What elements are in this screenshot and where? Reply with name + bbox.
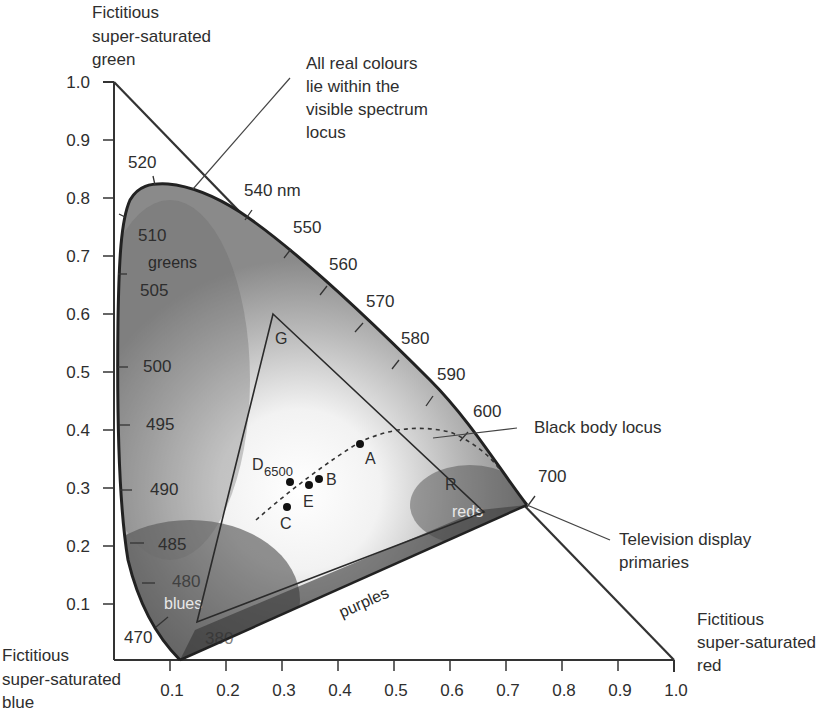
svg-text:super-saturated: super-saturated: [697, 633, 816, 652]
svg-text:0.8: 0.8: [66, 189, 90, 208]
svg-text:0.1: 0.1: [66, 595, 90, 614]
svg-text:G: G: [275, 330, 287, 347]
svg-text:0.7: 0.7: [66, 247, 90, 266]
svg-text:0.8: 0.8: [552, 681, 576, 700]
point-e: [305, 481, 313, 489]
svg-text:A: A: [365, 450, 376, 467]
svg-text:visible spectrum: visible spectrum: [306, 100, 428, 119]
svg-text:1.0: 1.0: [664, 681, 688, 700]
chromaticity-diagram: 1.0 0.9 0.8 0.7 0.6 0.5 0.4 0.3 0.2 0.1 …: [0, 0, 840, 727]
svg-text:380: 380: [205, 629, 233, 648]
y-axis-tick-labels: 1.0 0.9 0.8 0.7 0.6 0.5 0.4 0.3 0.2 0.1: [66, 73, 90, 614]
svg-text:super-saturated: super-saturated: [2, 670, 121, 689]
svg-text:0.2: 0.2: [66, 537, 90, 556]
svg-text:E: E: [303, 493, 314, 510]
svg-text:700: 700: [538, 467, 566, 486]
svg-text:0.3: 0.3: [272, 681, 296, 700]
svg-text:480: 480: [172, 572, 200, 591]
svg-text:greens: greens: [148, 254, 197, 271]
svg-text:0.5: 0.5: [66, 363, 90, 382]
svg-text:D: D: [252, 456, 264, 473]
svg-text:500: 500: [143, 357, 171, 376]
svg-text:C: C: [280, 515, 292, 532]
svg-text:520: 520: [128, 153, 156, 172]
svg-text:590: 590: [437, 365, 465, 384]
svg-text:Fictitious: Fictitious: [697, 610, 764, 629]
svg-text:Fictitious: Fictitious: [92, 3, 159, 22]
svg-text:blues: blues: [164, 595, 202, 612]
svg-text:1.0: 1.0: [66, 73, 90, 92]
svg-text:540 nm: 540 nm: [244, 181, 301, 200]
svg-text:490: 490: [150, 480, 178, 499]
svg-text:All real colours: All real colours: [306, 54, 418, 73]
annotation-tv-primaries: Television display primaries: [619, 530, 752, 572]
svg-text:blue: blue: [2, 693, 34, 712]
svg-text:600: 600: [473, 402, 501, 421]
annotation-red-corner: Fictitious super-saturated red: [697, 610, 816, 675]
svg-text:B: B: [326, 471, 337, 488]
svg-text:primaries: primaries: [619, 553, 689, 572]
svg-text:505: 505: [140, 281, 168, 300]
svg-text:super-saturated: super-saturated: [92, 27, 211, 46]
svg-text:0.6: 0.6: [440, 681, 464, 700]
svg-text:6500: 6500: [264, 464, 293, 479]
annotation-black-body: Black body locus: [534, 418, 662, 437]
annotation-real-colours: All real colours lie within the visible …: [306, 54, 428, 142]
point-b: [315, 475, 323, 483]
svg-text:lie within the: lie within the: [306, 77, 400, 96]
svg-text:570: 570: [366, 292, 394, 311]
svg-text:495: 495: [146, 415, 174, 434]
point-d6500: [286, 478, 294, 486]
svg-text:Television display: Television display: [619, 530, 752, 549]
svg-text:470: 470: [124, 628, 152, 647]
svg-text:550: 550: [293, 218, 321, 237]
point-a: [356, 440, 364, 448]
annotation-blue-corner: Fictitious super-saturated blue: [2, 646, 121, 712]
y-axis-ticks: [103, 140, 114, 604]
svg-text:0.3: 0.3: [66, 479, 90, 498]
annotation-green-corner: Fictitious super-saturated green: [92, 3, 211, 69]
svg-text:R: R: [445, 476, 457, 493]
x-axis-ticks: [170, 660, 618, 671]
svg-text:0.9: 0.9: [66, 131, 90, 150]
svg-text:locus: locus: [306, 123, 346, 142]
svg-text:0.6: 0.6: [66, 305, 90, 324]
svg-text:510: 510: [138, 226, 166, 245]
svg-text:green: green: [92, 50, 135, 69]
point-c: [283, 503, 291, 511]
svg-text:0.4: 0.4: [66, 421, 90, 440]
svg-text:0.2: 0.2: [216, 681, 240, 700]
x-axis-tick-labels: 0.1 0.2 0.3 0.4 0.5 0.6 0.7 0.8 0.9 1.0: [160, 681, 688, 700]
svg-text:0.9: 0.9: [608, 681, 632, 700]
svg-text:580: 580: [401, 329, 429, 348]
svg-text:0.7: 0.7: [496, 681, 520, 700]
svg-text:purples: purples: [336, 584, 391, 621]
svg-text:red: red: [697, 656, 722, 675]
svg-text:485: 485: [158, 535, 186, 554]
svg-text:Black body locus: Black body locus: [534, 418, 662, 437]
svg-text:560: 560: [329, 255, 357, 274]
svg-text:0.1: 0.1: [160, 681, 184, 700]
svg-text:0.4: 0.4: [328, 681, 352, 700]
svg-text:Fictitious: Fictitious: [2, 646, 69, 665]
svg-text:0.5: 0.5: [384, 681, 408, 700]
